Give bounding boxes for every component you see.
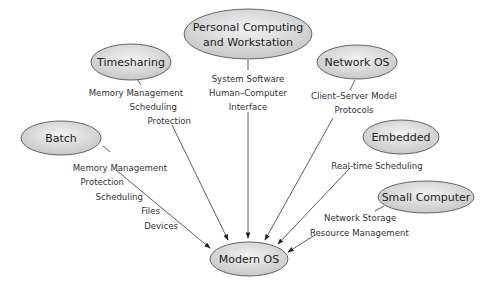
edge-small-stub	[375, 206, 384, 211]
svg-text:Small Computer: Small Computer	[382, 191, 471, 204]
feature-label: Files	[141, 206, 160, 216]
feature-label: Memory Management	[73, 163, 168, 173]
feature-label: Scheduling	[130, 102, 178, 112]
svg-text:and Workstation: and Workstation	[203, 36, 293, 49]
feature-label: Memory Management	[89, 88, 184, 98]
svg-text:Batch: Batch	[45, 132, 77, 145]
edge-batch-stub	[103, 146, 110, 152]
feature-label: Real-time Scheduling	[331, 161, 422, 171]
feature-label: Protocols	[334, 105, 374, 115]
feature-label: Resource Management	[310, 228, 409, 238]
feature-label: Human–Computer	[209, 88, 287, 98]
node-timesharing: Timesharing	[91, 44, 171, 80]
feature-label: Devices	[144, 221, 178, 231]
svg-text:Personal Computing: Personal Computing	[193, 21, 304, 34]
svg-text:Network OS: Network OS	[324, 56, 389, 69]
node-batch: Batch	[21, 121, 101, 155]
os-evolution-diagram: Timesharing Memory Management Scheduling…	[0, 0, 495, 288]
edge-batch	[116, 170, 210, 248]
feature-label: Client–Server Model	[311, 91, 397, 101]
node-network: Network OS	[317, 45, 397, 79]
feature-label: Protection	[81, 177, 124, 187]
svg-text:Modern OS: Modern OS	[219, 253, 279, 266]
feature-label: Protection	[148, 116, 191, 126]
feature-label: Interface	[229, 102, 267, 112]
svg-text:Timesharing: Timesharing	[96, 56, 165, 69]
feature-label: Network Storage	[324, 213, 396, 223]
edge-timesharing	[172, 125, 228, 240]
node-personal: Personal Computing and Workstation	[184, 9, 312, 59]
node-modern-os: Modern OS	[210, 242, 288, 276]
edge-network-stub	[350, 80, 355, 90]
node-embedded: Embedded	[363, 120, 439, 154]
feature-label: System Software	[212, 74, 285, 84]
node-small-computer: Small Computer	[378, 181, 474, 213]
svg-text:Embedded: Embedded	[371, 131, 430, 144]
feature-label: Scheduling	[96, 192, 144, 202]
